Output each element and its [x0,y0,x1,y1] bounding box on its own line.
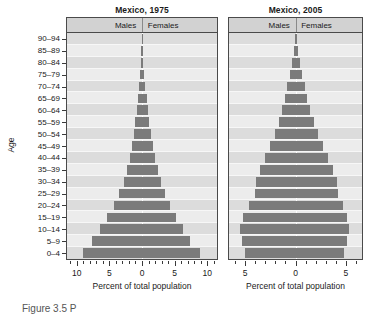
y-axis-tick-label: 85–89 [20,46,60,55]
plot-area-1975 [67,33,217,259]
x-axis-minor-tick [265,261,266,264]
x-axis-major-tick [296,261,297,266]
x-axis-tick-label: 5 [97,268,121,278]
bar-male-20-24 [249,201,295,211]
x-axis-minor-tick [122,261,123,264]
x-axis-minor-tick [285,261,286,264]
bar-female-65-69 [142,94,147,104]
x-axis-tick-label: 5 [163,268,187,278]
bar-female-45-49 [296,141,323,151]
gridline [229,68,362,69]
bar-female-50-54 [142,129,151,139]
bar-female-15-19 [142,213,176,223]
y-axis-tick-label: 70–74 [20,82,60,91]
x-axis-minor-tick [168,261,169,264]
x-axis-tick-label: 5 [334,268,358,278]
bar-male-0-4 [245,248,295,258]
x-axis-tick-label: 0 [284,268,308,278]
x-axis-major-tick [175,261,176,266]
x-axis-minor-tick [235,261,236,264]
gridline [67,115,217,116]
gridline [67,222,217,223]
bar-female-80-84 [296,58,300,68]
y-axis-tick [62,194,66,195]
y-axis-tick [62,146,66,147]
bar-female-60-64 [142,105,148,115]
bar-female-20-24 [296,201,343,211]
legend-label-males: Males [269,20,295,31]
x-axis-minor-tick [326,261,327,264]
x-axis-tick-label: 5 [233,268,257,278]
legend-label-males: Males [115,20,141,31]
y-axis-tick [62,182,66,183]
figure-caption: Figure 3.5 P [22,303,322,316]
x-axis-minor-tick [149,261,150,264]
x-axis-minor-tick [188,261,189,264]
y-axis-tick [62,122,66,123]
gridline [229,210,362,211]
y-axis-tick-label: 30–34 [20,177,60,186]
bar-female-30-34 [142,177,161,187]
bar-female-85-89 [142,46,143,56]
y-axis-tick-label: 0–4 [20,249,60,258]
bar-male-5-9 [242,236,295,246]
gridline [67,187,217,188]
bar-male-25-29 [119,189,142,199]
bar-male-10-14 [100,224,142,234]
gridline [67,80,217,81]
bar-female-75-79 [142,70,144,80]
bar-male-25-29 [255,189,295,199]
gridline [67,199,217,200]
bar-female-70-74 [296,82,305,92]
bar-male-30-34 [256,177,295,187]
gridline [229,115,362,116]
x-axis-minor-tick [162,261,163,264]
x-axis-minor-tick [356,261,357,264]
x-axis-title-1975: Percent of total population [66,281,218,291]
bar-male-50-54 [275,129,295,139]
bar-male-10-14 [240,224,295,234]
population-pyramid-figure: Mexico, 1975 Mexico, 2005 Age Males Fema… [0,0,369,316]
y-axis-tick-label: 80–84 [20,58,60,67]
bar-male-65-69 [285,94,295,104]
gridline [229,56,362,57]
y-axis-tick [62,87,66,88]
y-axis-tick [62,229,66,230]
gridline [67,91,217,92]
gridline [67,210,217,211]
bar-female-50-54 [296,129,318,139]
x-axis-minor-tick [155,261,156,264]
gridline [67,103,217,104]
x-axis-minor-tick [129,261,130,264]
y-axis-tick-label: 25–29 [20,189,60,198]
bar-female-5-9 [142,236,190,246]
bar-male-35-39 [127,165,142,175]
y-axis-tick-label: 45–49 [20,142,60,151]
gridline [229,175,362,176]
y-axis-tick-label: 5–9 [20,237,60,246]
y-axis-tick [62,205,66,206]
bar-female-75-79 [296,70,303,80]
bar-female-80-84 [142,58,143,68]
x-axis-major-tick [245,261,246,266]
bar-male-45-49 [270,141,295,151]
bar-female-30-34 [296,177,337,187]
x-axis-minor-tick [306,261,307,264]
x-axis-minor-tick [116,261,117,264]
gridline [67,56,217,57]
legend-label-females: Females [296,20,332,31]
panel-title-2005: Mexico, 2005 [228,5,363,15]
gridline [67,163,217,164]
gridline [67,175,217,176]
bar-male-30-34 [124,177,142,187]
gridline [67,234,217,235]
y-axis-tick-label: 20–24 [20,201,60,210]
y-axis-tick-label: 65–69 [20,94,60,103]
bar-female-0-4 [142,248,200,258]
bar-female-70-74 [142,82,145,92]
bar-female-85-89 [296,46,299,56]
x-axis-minor-tick [255,261,256,264]
x-axis-minor-tick [336,261,337,264]
gridline [229,199,362,200]
bar-male-70-74 [287,82,295,92]
